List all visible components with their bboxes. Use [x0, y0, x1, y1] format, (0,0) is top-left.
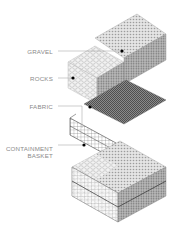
- label-basket-line1: CONTAINMENT: [6, 145, 53, 152]
- dot-gravel: [120, 49, 123, 52]
- label-rocks: ROCKS: [30, 75, 53, 82]
- label-gravel: GRAVEL: [27, 48, 53, 55]
- dot-rocks: [71, 76, 74, 79]
- gabion-exploded-diagram: [0, 0, 177, 238]
- dot-fabric: [88, 105, 91, 108]
- containment-basket-box: [72, 141, 166, 222]
- label-fabric: FABRIC: [29, 103, 53, 110]
- label-containment-basket: CONTAINMENT BASKET: [6, 145, 53, 159]
- dot-basket: [82, 143, 85, 146]
- label-basket-line2: BASKET: [6, 152, 53, 159]
